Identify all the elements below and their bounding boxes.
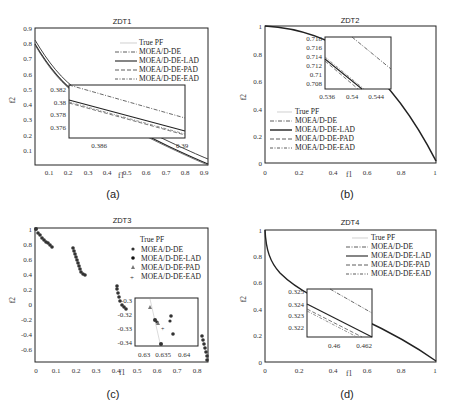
panel-a-xlabel: f1 xyxy=(118,171,124,180)
figure-canvas: ZDT1 0.382 0.38 0.378 0.376 0.386 0.39 T… xyxy=(0,0,450,410)
panel-d-title: ZDT4 xyxy=(341,218,360,227)
svg-text:MOEA/D-DE: MOEA/D-DE xyxy=(139,47,181,56)
svg-text:MOEA/D-DE: MOEA/D-DE xyxy=(141,245,183,254)
svg-text:0.1: 0.1 xyxy=(23,147,32,155)
svg-text:1: 1 xyxy=(259,227,263,235)
svg-text:0.8: 0.8 xyxy=(23,40,32,48)
panel-d-inset-ytick: 0.324 xyxy=(288,301,304,309)
svg-text:0.9: 0.9 xyxy=(23,25,32,33)
svg-text:0.6: 0.6 xyxy=(253,279,262,287)
svg-text:0.6: 0.6 xyxy=(253,78,262,86)
panel-a-legend: True PF MOEA/D-DE MOEA/D-DE-LAD MOEA/D-D… xyxy=(115,38,200,83)
svg-text:0.6: 0.6 xyxy=(153,367,162,375)
svg-text:0: 0 xyxy=(34,367,38,375)
panel-d-yticks: 1 0.8 0.6 0.4 0.2 0 xyxy=(253,227,262,367)
panel-b-title: ZDT2 xyxy=(341,16,360,25)
panel-b-inset-ytick: 0.714 xyxy=(306,53,322,61)
panel-d-caption: (d) xyxy=(340,388,353,400)
svg-text:0.2: 0.2 xyxy=(253,133,262,141)
svg-text:0.2: 0.2 xyxy=(295,169,304,177)
svg-text:0.5: 0.5 xyxy=(133,367,142,375)
panel-c-inset-xtick: 0.64 xyxy=(178,351,191,359)
panel-b: ZDT2 0.718 0.716 0.714 0.712 0.71 0.708 … xyxy=(239,16,437,200)
panel-c-title: ZDT3 xyxy=(113,216,132,225)
panel-a: ZDT1 0.382 0.38 0.378 0.376 0.386 0.39 T… xyxy=(8,17,209,200)
svg-text:0: 0 xyxy=(263,367,267,375)
panel-d-legend: True PF MOEA/D-DE MOEA/D-DE-LAD MOEA/D-D… xyxy=(346,233,432,278)
svg-text:+: + xyxy=(130,274,134,282)
panel-c-inset-xtick: 0.635 xyxy=(155,351,171,359)
panel-b-inset-ytick: 0.708 xyxy=(306,80,322,88)
svg-text:MOEA/D-DE-PAD: MOEA/D-DE-PAD xyxy=(139,65,198,74)
svg-text:0.2: 0.2 xyxy=(253,332,262,340)
svg-text:MOEA/D-DE: MOEA/D-DE xyxy=(371,242,413,251)
svg-text:0.6: 0.6 xyxy=(23,71,32,79)
panel-d-xlabel: f1 xyxy=(346,369,352,378)
svg-text:0.4: 0.4 xyxy=(23,271,32,279)
panel-d-inset-ytick: 0.323 xyxy=(288,312,304,320)
panel-c-legend: True PF MOEA/D-DE MOEA/D-DE-LAD MOEA/D-D… xyxy=(130,235,202,282)
panel-b-legend: True PF MOEA/D-DE MOEA/D-DE-LAD MOEA/D-D… xyxy=(270,107,356,152)
panel-d-inset xyxy=(307,289,372,337)
svg-text:0: 0 xyxy=(259,359,263,367)
svg-text:1: 1 xyxy=(29,226,33,234)
svg-text:0.3: 0.3 xyxy=(23,116,32,124)
svg-text:-0.2: -0.2 xyxy=(21,316,33,324)
panel-a-xticks: 0.1 0.2 0.3 0.4 0.5 0.6 0.7 0.8 0.9 xyxy=(45,169,209,177)
panel-c-ylabel: f2 xyxy=(8,297,17,303)
panel-a-inset-ytick: 0.38 xyxy=(54,99,67,107)
svg-text:0.4: 0.4 xyxy=(329,367,338,375)
panel-b-inset-ytick: 0.718 xyxy=(306,35,322,43)
svg-text:0.3: 0.3 xyxy=(92,367,101,375)
svg-text:0.4: 0.4 xyxy=(253,106,262,114)
panel-c-inset-ytick: -0.33 xyxy=(117,325,132,333)
panel-b-inset-ytick: 0.712 xyxy=(306,62,322,70)
panel-a-title: ZDT1 xyxy=(113,17,132,26)
svg-text:1: 1 xyxy=(433,367,437,375)
svg-text:0.8: 0.8 xyxy=(253,253,262,261)
svg-text:0.8: 0.8 xyxy=(253,51,262,59)
panel-b-inset-ytick: 0.716 xyxy=(306,44,322,52)
panel-b-inset-xtick: 0.54 xyxy=(346,93,359,101)
svg-text:MOEA/D-DE-LAD: MOEA/D-DE-LAD xyxy=(141,254,202,263)
svg-text:0.2: 0.2 xyxy=(23,132,32,140)
svg-text:0.7: 0.7 xyxy=(173,367,182,375)
svg-text:0.2: 0.2 xyxy=(64,169,73,177)
svg-text:MOEA/D-DE-EAD: MOEA/D-DE-EAD xyxy=(295,143,356,152)
svg-text:0.5: 0.5 xyxy=(23,86,32,94)
panel-b-xlabel: f1 xyxy=(346,170,352,179)
panel-d-inset-xtick: 0.46 xyxy=(328,342,341,350)
svg-text:MOEA/D-DE-LAD: MOEA/D-DE-LAD xyxy=(371,251,432,260)
svg-text:0.1: 0.1 xyxy=(45,169,54,177)
panel-c-inset-ytick: -0.3 xyxy=(121,297,133,305)
svg-text:1: 1 xyxy=(433,169,437,177)
svg-text:MOEA/D-DE-LAD: MOEA/D-DE-LAD xyxy=(295,125,356,134)
panel-a-ylabel: f2 xyxy=(8,97,17,103)
panel-b-caption: (b) xyxy=(340,188,353,200)
panel-c-caption: (c) xyxy=(107,388,120,400)
svg-text:-0.4: -0.4 xyxy=(21,331,33,339)
panel-c-inset xyxy=(135,298,198,346)
panel-d-ylabel: f2 xyxy=(239,296,248,302)
panel-b-inset-ytick: 0.71 xyxy=(310,71,323,79)
svg-text:0.2: 0.2 xyxy=(295,367,304,375)
svg-text:True PF: True PF xyxy=(371,233,395,242)
svg-text:0.6: 0.6 xyxy=(363,367,372,375)
svg-text:MOEA/D-DE-PAD: MOEA/D-DE-PAD xyxy=(371,260,430,269)
panel-d-inset-ytick: 0.322 xyxy=(288,324,304,332)
panel-b-ylabel: f2 xyxy=(239,94,248,100)
svg-text:0: 0 xyxy=(29,301,33,309)
svg-text:MOEA/D-DE-EAD: MOEA/D-DE-EAD xyxy=(139,74,200,83)
svg-text:0.4: 0.4 xyxy=(103,169,112,177)
svg-text:-0.6: -0.6 xyxy=(21,346,33,354)
svg-text:0.6: 0.6 xyxy=(142,169,151,177)
svg-text:0.3: 0.3 xyxy=(84,169,93,177)
panel-b-inset-xtick: 0.544 xyxy=(368,93,384,101)
svg-text:MOEA/D-DE-PAD: MOEA/D-DE-PAD xyxy=(295,134,354,143)
svg-text:MOEA/D-DE: MOEA/D-DE xyxy=(295,116,337,125)
svg-text:0.2: 0.2 xyxy=(23,286,32,294)
panel-d-inset-xtick: 0.462 xyxy=(356,342,372,350)
svg-text:MOEA/D-DE-LAD: MOEA/D-DE-LAD xyxy=(139,56,200,65)
svg-text:1: 1 xyxy=(259,23,263,31)
svg-text:0.4: 0.4 xyxy=(329,169,338,177)
